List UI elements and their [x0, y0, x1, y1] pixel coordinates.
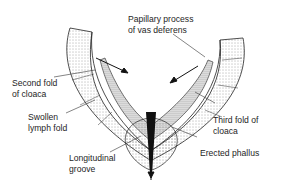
- label-longitudinal-groove: Longitudinal groove: [69, 153, 115, 174]
- label-third-fold: Third fold of cloaca: [213, 115, 258, 136]
- label-second-fold: Second fold of cloaca: [12, 78, 57, 99]
- label-swollen-lymph-fold: Swollen lymph fold: [28, 112, 67, 133]
- label-erected-phallus: Erected phallus: [200, 148, 259, 159]
- label-papillary-process: Papillary process of vas deferens: [128, 14, 193, 35]
- phallus-diagram: Papillary process of vas deferens Second…: [0, 0, 283, 180]
- down-arrow-icon: [148, 172, 154, 178]
